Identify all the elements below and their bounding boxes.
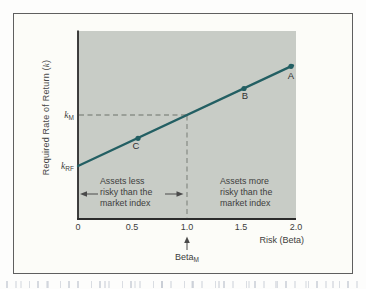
beta-m-label: BetaM	[157, 253, 217, 264]
krf-sub: RF	[65, 165, 74, 172]
right-arrow-icon	[177, 191, 184, 197]
annotation-less-line3: market index	[100, 198, 152, 209]
km-axis-label: kM	[34, 110, 74, 122]
annotation-more-line2: risky than the	[220, 187, 272, 198]
beta-m-text: Beta	[175, 252, 194, 262]
point-a-label: A	[283, 71, 299, 81]
cutoff-text-fragments	[6, 281, 358, 288]
x-tick-15: 1.5	[229, 223, 253, 232]
y-axis-title-k: k	[41, 63, 51, 67]
x-tick-05: 0.5	[120, 223, 144, 232]
annotation-assets-less: Assets less risky than the market index	[100, 176, 152, 209]
annotation-more-line1: Assets more	[220, 176, 272, 187]
left-arrow-icon	[80, 191, 87, 197]
x-tick-20: 2.0	[284, 223, 308, 232]
point-b-label: B	[237, 91, 253, 101]
point-a-dot	[288, 64, 293, 69]
security-market-line	[78, 65, 293, 166]
annotation-assets-more: Assets more risky than the market index	[220, 176, 272, 209]
scanned-textbook-figure: Required Rate of Return (k) kM kRF 0 0.5…	[0, 0, 366, 289]
up-arrow-icon	[184, 237, 190, 244]
x-tick-0: 0	[66, 223, 90, 232]
figure-frame: Required Rate of Return (k) kM kRF 0 0.5…	[13, 13, 353, 274]
annotation-more-line3: market index	[220, 198, 272, 209]
km-sub: M	[69, 114, 74, 121]
x-axis-title: Risk (Beta)	[214, 236, 304, 245]
x-tick-10: 1.0	[175, 223, 199, 232]
krf-axis-label: kRF	[34, 161, 74, 173]
annotation-less-line1: Assets less	[100, 176, 152, 187]
beta-m-sub: M	[194, 256, 199, 263]
annotation-less-line2: risky than the	[100, 187, 152, 198]
point-c-label: C	[128, 141, 144, 151]
y-axis-title-close: )	[41, 60, 51, 63]
